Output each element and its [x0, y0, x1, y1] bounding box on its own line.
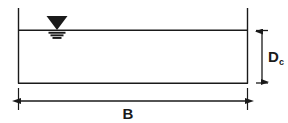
channel-cross-section-figure: D c B: [0, 0, 288, 123]
water-surface-triangle-icon: [47, 16, 68, 39]
width-label-symbol: B: [123, 105, 134, 122]
figure-canvas: D c B: [0, 0, 288, 123]
depth-dimension-group: [256, 31, 268, 84]
depth-label-subscript: c: [279, 57, 284, 67]
depth-label-symbol: D: [268, 48, 279, 65]
